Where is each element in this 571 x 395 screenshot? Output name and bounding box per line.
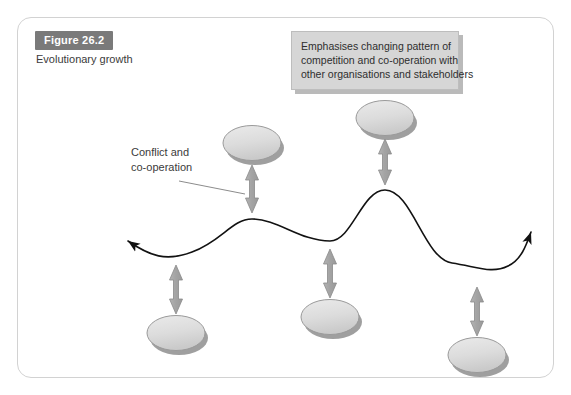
disc-top-right <box>356 101 417 141</box>
arrow-top-left <box>246 165 259 213</box>
disc-body <box>356 101 414 136</box>
disc-bottom-center <box>301 300 362 340</box>
disc-bottom-right <box>448 338 509 378</box>
disc-body <box>147 316 205 351</box>
arrow-bottom-center <box>324 249 337 298</box>
disc-group <box>147 101 509 378</box>
evolutionary-growth-diagram <box>0 0 571 395</box>
arrow-bottom-right <box>471 287 484 336</box>
figure-container: Figure 26.2 Evolutionary growth Emphasis… <box>0 0 571 395</box>
disc-body <box>448 338 506 373</box>
disc-body <box>223 126 281 161</box>
arrow-bottom-left <box>170 265 183 314</box>
leader-line <box>179 181 245 194</box>
disc-bottom-left <box>147 316 208 356</box>
disc-top-left <box>223 126 284 166</box>
disc-body <box>301 300 359 335</box>
arrow-top-right <box>379 139 392 185</box>
